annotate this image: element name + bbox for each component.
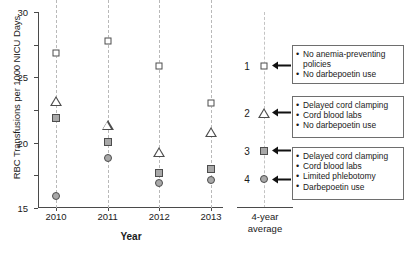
legend-bullet: Delayed cord clamping bbox=[296, 151, 399, 161]
gridline bbox=[108, 0, 109, 208]
data-point-filled-circle bbox=[52, 192, 60, 200]
data-point-open-triangle bbox=[205, 127, 217, 137]
data-point-open-triangle bbox=[102, 120, 114, 130]
legend-marker-open-square bbox=[261, 62, 268, 69]
y-tick-label: 20 bbox=[17, 137, 28, 148]
legend-bullet: Limited phlebotomy bbox=[296, 171, 399, 181]
arrow-shaft bbox=[278, 178, 291, 180]
legend-pointer-arrow bbox=[272, 146, 291, 155]
y-tick: 25 bbox=[34, 45, 38, 46]
x-tick-label: 2013 bbox=[200, 211, 221, 222]
data-point-filled-circle bbox=[104, 154, 112, 162]
legend-description-box: Delayed cord clampingCord blood labsNo d… bbox=[292, 96, 404, 138]
data-point-filled-circle bbox=[155, 179, 163, 187]
y-axis-title: RBC Transfusions per 1000 NICU Days bbox=[11, 0, 22, 198]
legend-description-box: Delayed cord clampingCord blood labsLimi… bbox=[292, 147, 404, 200]
data-marker-layer bbox=[38, 12, 223, 52]
data-point-filled-square bbox=[155, 169, 163, 177]
y-tick: 15 bbox=[34, 110, 38, 111]
data-point-open-triangle bbox=[153, 147, 165, 157]
legend-group-number: 4 bbox=[244, 174, 250, 185]
data-point-open-square bbox=[208, 100, 215, 107]
data-point-open-square bbox=[53, 50, 60, 57]
arrow-shaft bbox=[278, 65, 291, 67]
chart-figure: RBC Transfusions per 1000 NICU Days 0510… bbox=[0, 0, 405, 253]
legend-bullet: No anemia-preventing policies bbox=[296, 49, 399, 69]
data-point-filled-circle bbox=[207, 176, 215, 184]
legend-pointer-arrow bbox=[272, 175, 291, 184]
plot-axes-area: 051015202530 2010201120122013 bbox=[38, 12, 223, 208]
y-axis-line bbox=[38, 12, 39, 208]
y-tick-label: 15 bbox=[17, 203, 28, 214]
legend-group-number: 1 bbox=[244, 60, 250, 71]
legend-bullet: Cord blood labs bbox=[296, 110, 399, 120]
legend-bullet: Cord blood labs bbox=[296, 161, 399, 171]
y-tick-label: 25 bbox=[17, 72, 28, 83]
y-tick: 0 bbox=[34, 208, 38, 209]
legend-bullet: Darbepoetin use bbox=[296, 182, 399, 192]
legend-pointer-arrow bbox=[272, 61, 291, 70]
legend-group-number: 2 bbox=[244, 107, 250, 118]
x-tick-label: 2011 bbox=[97, 211, 117, 222]
legend-bullet: No darbepoetin use bbox=[296, 120, 399, 130]
data-point-open-square bbox=[156, 62, 163, 69]
y-tick: 10 bbox=[34, 143, 38, 144]
y-tick: 5 bbox=[34, 175, 38, 176]
y-tick-label: 30 bbox=[17, 7, 28, 18]
average-label-line2: average bbox=[230, 223, 300, 235]
data-point-open-triangle bbox=[50, 96, 62, 106]
data-point-filled-square bbox=[52, 114, 60, 122]
y-tick: 30 bbox=[34, 12, 38, 13]
x-tick-label: 2012 bbox=[149, 211, 170, 222]
legend-bullet: Delayed cord clamping bbox=[296, 100, 399, 110]
data-point-filled-square bbox=[207, 165, 215, 173]
scatter-plot-panel: RBC Transfusions per 1000 NICU Days 0510… bbox=[0, 0, 232, 253]
arrow-shaft bbox=[278, 150, 291, 152]
average-label-line1: 4-year bbox=[230, 211, 300, 223]
y-tick: 20 bbox=[34, 77, 38, 78]
legend-marker-filled-circle bbox=[260, 175, 268, 183]
legend-bullet: No darbepoetin use bbox=[296, 69, 399, 79]
legend-marker-filled-square bbox=[260, 147, 268, 155]
x-axis-title: Year bbox=[36, 231, 226, 242]
legend-pointer-arrow bbox=[272, 108, 291, 117]
data-point-filled-square bbox=[104, 138, 112, 146]
x-tick-label: 2010 bbox=[45, 211, 66, 222]
average-baseline bbox=[237, 207, 293, 208]
arrow-shaft bbox=[278, 112, 291, 114]
data-point-open-square bbox=[104, 38, 111, 45]
legend-marker-open-triangle bbox=[258, 108, 270, 118]
legend-description-box: No anemia-preventing policiesNo darbepoe… bbox=[292, 45, 404, 84]
average-legend-panel: 4-year average 1234No anemia-preventing … bbox=[232, 0, 405, 253]
legend-group-number: 3 bbox=[244, 145, 250, 156]
x-axis-line bbox=[38, 207, 223, 208]
legend-group-layer: 1234No anemia-preventing policiesNo darb… bbox=[232, 0, 405, 10]
average-axis-label: 4-year average bbox=[230, 211, 300, 234]
